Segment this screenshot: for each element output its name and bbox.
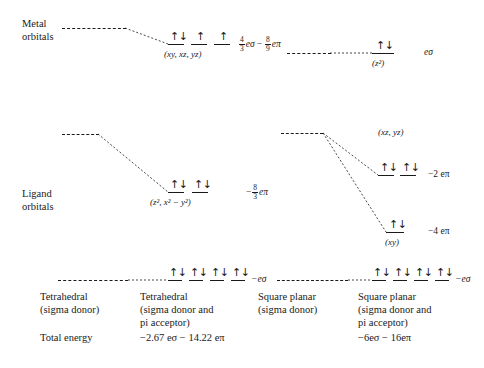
square-planar-pi-caption-line1: Square planar (358, 291, 432, 304)
square-planar-level-z2-bar (372, 53, 394, 54)
square-planar-sigma-caption-line2: (sigma donor) (258, 304, 317, 317)
tetrahedral-e-electron-pair-2: ↑↓ (194, 179, 211, 190)
square-planar-sigma-column-caption: Square planar (sigma donor) (258, 291, 317, 317)
tetrahedral-t2-energy-sym-1: eσ (246, 39, 255, 49)
tetrahedral-level-e-bar-1 (168, 192, 184, 193)
tetrahedral-bonding-bar-4 (231, 280, 245, 281)
tetrahedral-sigma-donor-band (58, 280, 128, 281)
square-planar-bonding-bar-2 (393, 280, 407, 281)
energy-level-diagram: Metal orbitals Ligand orbitals Total ene… (0, 0, 484, 368)
tetrahedral-sigma-caption-line1: Tetrahedral (40, 291, 99, 304)
square-planar-total-energy-value: −6eσ − 16eπ (358, 332, 411, 345)
square-planar-sigma-donor-band (277, 280, 348, 281)
square-planar-xz-yz-energy-label: −2 eπ (428, 169, 450, 181)
tetrahedral-e-energy-frac: 8 3 (252, 184, 258, 201)
ligand-orbitals-label-line2: orbitals (22, 201, 54, 214)
tetrahedral-e-energy-label: − 8 3 eπ (246, 184, 268, 201)
metal-orbitals-label-line1: Metal (22, 18, 54, 31)
square-planar-bonding-energy-label: −eσ (455, 274, 470, 286)
total-energy-label: Total energy (40, 332, 92, 345)
square-planar-xy-orbital-label: (xy) (385, 237, 399, 248)
square-planar-ligand-orbitals-band (281, 133, 323, 134)
tetrahedral-pi-column-caption: Tetrahedral (sigma donor and pi acceptor… (140, 291, 214, 329)
square-planar-xz-yz-electron-pair-1: ↑↓ (380, 162, 397, 173)
metal-orbitals-axis-label: Metal orbitals (22, 18, 54, 44)
square-planar-level-xz-yz-bar-2 (400, 175, 416, 176)
tetrahedral-bonding-bar-1 (168, 280, 182, 281)
tetrahedral-level-t2-bar-3 (214, 44, 230, 45)
tetrahedral-t2-electron-up-2: ↑ (219, 31, 228, 42)
square-planar-bonding-bar-4 (435, 280, 449, 281)
square-planar-xy-electron-pair: ↑↓ (389, 219, 406, 230)
square-planar-pi-caption-line2: (sigma donor and (358, 304, 432, 317)
tetrahedral-e-electron-pair-1: ↑↓ (170, 179, 187, 190)
tetrahedral-t2-energy-frac-2: 8 9 (265, 36, 271, 53)
tetrahedral-t2-electron-pair: ↑↓ (170, 31, 187, 42)
square-planar-metal-orbitals-band (287, 53, 331, 54)
metal-orbitals-label-line2: orbitals (22, 31, 54, 44)
tetrahedral-t2-orbital-label: (xy, xz, yz) (164, 49, 201, 60)
square-planar-xz-yz-orbital-label: (xz, yz) (378, 127, 404, 138)
tetrahedral-ligand-orbitals-band (62, 134, 99, 135)
tetrahedral-bonding-electron-pair-4: ↑↓ (232, 267, 249, 278)
tetrahedral-t2-energy-operator: − (257, 39, 262, 49)
tetrahedral-t2-energy-frac-1: 4 3 (239, 36, 245, 53)
tetrahedral-level-t2-bar-2 (191, 44, 207, 45)
tetrahedral-e-energy-sym: eπ (259, 187, 268, 197)
square-planar-pi-column-caption: Square planar (sigma donor and pi accept… (358, 291, 432, 329)
square-planar-level-xy-bar (386, 232, 404, 233)
tetrahedral-t2-energy-sym-2: eπ (272, 39, 281, 49)
tetrahedral-bonding-electron-pair-1: ↑↓ (169, 267, 186, 278)
ligand-orbitals-axis-label: Ligand orbitals (22, 188, 54, 214)
square-planar-bonding-electron-pair-3: ↑↓ (415, 267, 432, 278)
square-planar-z2-energy-label: eσ (424, 47, 433, 59)
tetrahedral-e-orbital-label: (z², x² − y²) (150, 197, 191, 208)
tetrahedral-pi-caption-line2: (sigma donor and (140, 304, 214, 317)
tetrahedral-pi-caption-line3: pi acceptor) (140, 317, 214, 330)
tetrahedral-pi-caption-line1: Tetrahedral (140, 291, 214, 304)
tetrahedral-bonding-bar-2 (189, 280, 203, 281)
tetrahedral-total-energy-value: −2.67 eσ − 14.22 eπ (140, 332, 225, 345)
square-planar-pi-caption-line3: pi acceptor) (358, 317, 432, 330)
tetrahedral-bonding-electron-pair-2: ↑↓ (190, 267, 207, 278)
tetrahedral-t2-electron-up-1: ↑ (196, 31, 205, 42)
square-planar-z2-electron-pair: ↑↓ (376, 40, 393, 51)
tetrahedral-bonding-energy-label: −eσ (251, 274, 266, 286)
square-planar-z2-orbital-label: (z²) (372, 58, 384, 69)
square-planar-bonding-bar-3 (414, 280, 428, 281)
tetrahedral-sigma-column-caption: Tetrahedral (sigma donor) (40, 291, 99, 317)
tetrahedral-metal-orbitals-band (62, 28, 126, 29)
square-planar-bonding-electron-pair-1: ↑↓ (373, 267, 390, 278)
square-planar-level-xz-yz-bar-1 (378, 175, 394, 176)
tetrahedral-t2-energy-label: 4 3 eσ− 8 9 eπ (238, 36, 281, 53)
square-planar-xz-yz-electron-pair-2: ↑↓ (402, 162, 419, 173)
tetrahedral-bonding-bar-3 (210, 280, 224, 281)
ligand-orbitals-label-line1: Ligand (22, 188, 54, 201)
tetrahedral-e-energy-sign: − (246, 187, 251, 197)
tetrahedral-level-t2-bar-1 (168, 44, 184, 45)
tetrahedral-level-e-bar-2 (192, 192, 208, 193)
square-planar-sigma-caption-line1: Square planar (258, 291, 317, 304)
tetrahedral-sigma-caption-line2: (sigma donor) (40, 304, 99, 317)
square-planar-xy-energy-label: −4 eπ (428, 226, 450, 238)
square-planar-bonding-bar-1 (372, 280, 386, 281)
tetrahedral-bonding-electron-pair-3: ↑↓ (211, 267, 228, 278)
square-planar-bonding-electron-pair-2: ↑↓ (394, 267, 411, 278)
square-planar-bonding-electron-pair-4: ↑↓ (436, 267, 453, 278)
